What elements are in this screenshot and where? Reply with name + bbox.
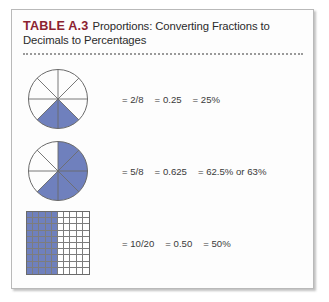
table-number: TABLE A.3 — [23, 19, 88, 33]
table-title-text-1: Proportions: Converting Fractions to — [92, 20, 269, 32]
fraction-value: = 10/20 — [122, 238, 154, 249]
percent-value: = 50% — [203, 238, 230, 249]
pie-slice-shaded — [58, 99, 79, 129]
fraction-value: = 5/8 — [122, 166, 144, 177]
decimal-value: = 0.625 — [155, 166, 187, 177]
percent-value: = 25% — [193, 94, 220, 105]
table-title-line-2: Decimals to Percentages — [23, 33, 301, 47]
pie-divider-line — [58, 78, 79, 99]
decimal-value: = 0.25 — [155, 94, 182, 105]
pie-slice-shaded — [37, 171, 58, 201]
table-card: TABLE A.3Proportions: Converting Fractio… — [11, 9, 314, 289]
row-equations: = 2/8= 0.25= 25% — [122, 94, 220, 105]
grid-ten-twentieths — [26, 211, 90, 275]
header-divider — [23, 51, 303, 55]
table-row: = 2/8= 0.25= 25% — [12, 63, 313, 135]
pie-slice-shaded — [37, 99, 58, 129]
table-rows: = 2/8= 0.25= 25%= 5/8= 0.625= 62.5% or 6… — [12, 63, 313, 279]
pie-divider-line — [37, 150, 58, 171]
decimal-value: = 0.50 — [165, 238, 192, 249]
pie-five-eighths — [26, 139, 90, 203]
row-equations: = 10/20= 0.50= 50% — [122, 238, 231, 249]
row-equations: = 5/8= 0.625= 62.5% or 63% — [122, 166, 266, 177]
table-row: = 5/8= 0.625= 62.5% or 63% — [12, 135, 313, 207]
row-figure — [26, 67, 90, 131]
table-title-line-1: TABLE A.3Proportions: Converting Fractio… — [23, 19, 301, 33]
row-figure — [26, 139, 90, 203]
percent-value: = 62.5% or 63% — [198, 166, 267, 177]
table-row: = 10/20= 0.50= 50% — [12, 207, 313, 279]
row-figure — [26, 211, 90, 275]
pie-divider-line — [37, 78, 58, 99]
table-header: TABLE A.3Proportions: Converting Fractio… — [12, 10, 313, 47]
fraction-value: = 2/8 — [122, 94, 144, 105]
grid-cell — [83, 268, 89, 274]
pie-two-eighths — [26, 67, 90, 131]
